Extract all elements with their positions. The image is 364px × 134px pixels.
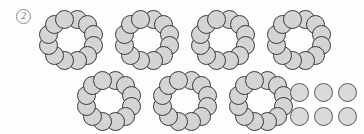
counter-disc [283,10,302,29]
counter-disc [245,71,264,90]
counter-disc [290,83,309,102]
counter-disc [338,83,357,102]
counter-disc [314,83,333,102]
ring-2 [114,9,180,71]
loose-cluster [290,83,358,127]
counter-disc [169,71,188,90]
ring-7 [228,70,294,132]
counter-disc [93,71,112,90]
counter-disc [55,10,74,29]
problem-number-badge: 2 [16,9,31,24]
ring-4 [266,9,332,71]
ring-5 [76,70,142,132]
counter-disc [314,107,333,126]
ring-1 [38,9,104,71]
counter-disc [131,10,150,29]
counter-disc [207,10,226,29]
counter-disc [338,107,357,126]
worksheet-canvas: 2 [0,0,364,134]
ring-6 [152,70,218,132]
ring-3 [190,9,256,71]
counter-disc [290,107,309,126]
